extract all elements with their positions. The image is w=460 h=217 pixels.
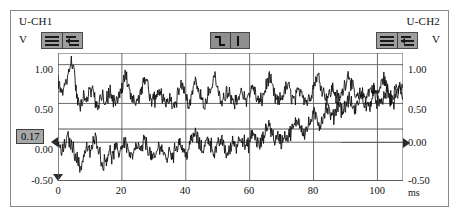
trace-group	[58, 56, 403, 172]
y-tick-left-0: 1.00	[17, 64, 53, 75]
oscilloscope-panel: U-CH1 U-CH2 V V ms 1.00	[10, 10, 449, 207]
gridlines	[58, 53, 403, 181]
waveform-plot[interactable]	[58, 53, 403, 181]
x-tick-3: 60	[234, 185, 264, 196]
y-tick-right-0: 1.00	[408, 64, 426, 75]
x-axis-unit: ms	[408, 187, 420, 198]
y-tick-left-1: 0.50	[17, 104, 53, 115]
ch2-lines-icon	[377, 33, 398, 48]
x-tick-5: 100	[362, 185, 392, 196]
left-cursor-marker-icon[interactable]	[51, 137, 58, 147]
trigger-mode-button[interactable]	[210, 32, 250, 49]
y-tick-right-1: 0.50	[408, 104, 426, 115]
x-tick-4: 80	[298, 185, 328, 196]
plot-border	[58, 53, 403, 181]
x-tick-2: 40	[170, 185, 200, 196]
trigger-level-icon	[231, 33, 250, 48]
y-axis-unit-left: V	[19, 33, 27, 45]
waveform-svg	[58, 53, 403, 181]
ch1-shift-arrow-icon	[63, 33, 83, 48]
trigger-edge-icon	[211, 33, 231, 48]
cursor-value-readout[interactable]: 0.17	[16, 129, 44, 144]
x-tick-0: 0	[43, 185, 73, 196]
ch2-display-mode-button[interactable]	[376, 32, 418, 49]
y-axis-unit-right: V	[432, 33, 440, 45]
ch2-shift-arrow-icon	[398, 33, 418, 48]
channel-1-label: U-CH1	[19, 15, 52, 27]
y-tick-right-2: 0.00	[408, 137, 426, 148]
y-tick-right-3: -0.50	[408, 175, 430, 186]
x-tick-1: 20	[106, 185, 136, 196]
right-cursor-marker-icon[interactable]	[403, 138, 410, 148]
ch1-lines-icon	[42, 33, 63, 48]
y-tick-left-2: 0.00	[17, 144, 53, 155]
ch1-display-mode-button[interactable]	[41, 32, 83, 49]
channel-2-label: U-CH2	[407, 15, 440, 27]
